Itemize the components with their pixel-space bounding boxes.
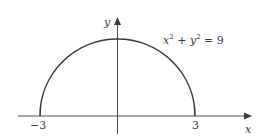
eq-equals: = bbox=[204, 34, 213, 47]
x-tick-label-neg3: −3 bbox=[30, 120, 46, 131]
eq-rhs: 9 bbox=[217, 34, 224, 47]
x-axis-arrow-icon bbox=[244, 113, 252, 120]
y-axis-label: y bbox=[104, 17, 110, 28]
equation-label: x2 + y2 = 9 bbox=[163, 34, 224, 46]
x-tick-label-3: 3 bbox=[192, 120, 199, 131]
y-axis-arrow-icon bbox=[114, 17, 121, 25]
eq-plus: + bbox=[177, 34, 186, 47]
eq-exp-y: 2 bbox=[196, 33, 200, 41]
eq-exp-x: 2 bbox=[169, 33, 173, 41]
x-axis-label: x bbox=[245, 124, 251, 135]
